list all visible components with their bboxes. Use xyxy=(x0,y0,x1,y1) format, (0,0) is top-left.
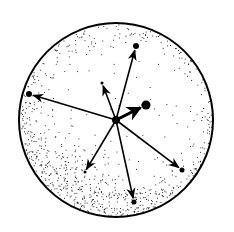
vector-endpoint-dot xyxy=(133,43,139,49)
vector-endpoint-dot xyxy=(142,101,151,110)
vector-endpoint-dot xyxy=(180,168,185,173)
vector-endpoint-dot xyxy=(132,200,137,205)
center-point xyxy=(112,116,120,124)
vector-sphere-diagram xyxy=(0,0,234,232)
vector-endpoint-dot xyxy=(84,171,87,174)
vector-endpoint-dot xyxy=(26,91,32,97)
vector-endpoint-dot xyxy=(101,82,104,85)
